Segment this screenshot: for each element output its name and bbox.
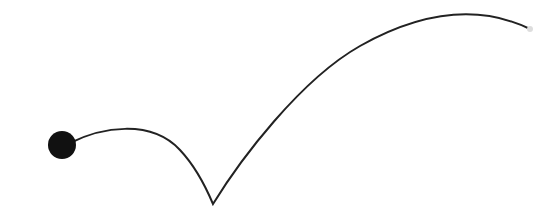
ball-marker (48, 131, 76, 159)
trajectory-path (70, 14, 530, 204)
end-point-marker (527, 26, 533, 32)
trajectory-diagram (0, 0, 534, 219)
